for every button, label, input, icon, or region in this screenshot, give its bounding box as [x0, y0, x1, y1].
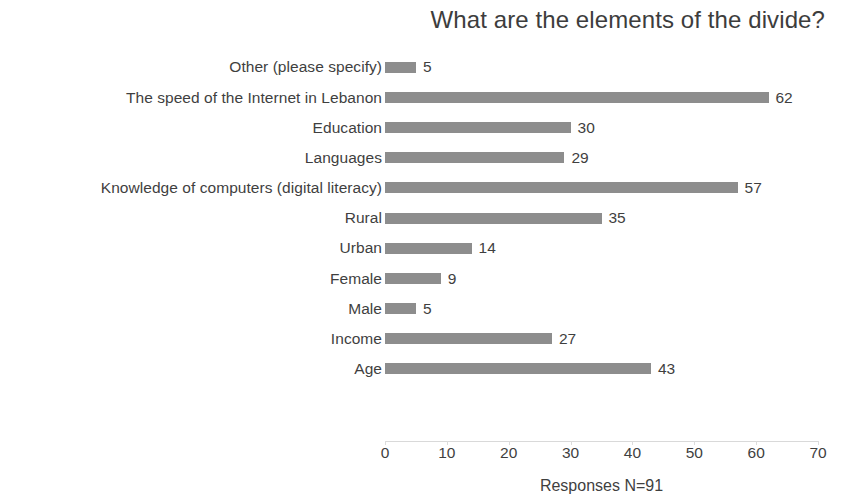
bar: [385, 363, 651, 374]
bar-container: 5: [385, 303, 432, 314]
x-axis-ticks: 010203040506070: [0, 445, 841, 467]
x-tick-label: 20: [500, 445, 517, 461]
x-axis-line: [385, 441, 818, 442]
bar-value-label: 9: [448, 271, 457, 287]
plot-area: Other (please specify)5The speed of the …: [0, 52, 841, 389]
bar: [385, 213, 602, 224]
bar-value-label: 57: [745, 180, 762, 196]
bar-row: Education30: [0, 112, 841, 142]
bar-container: 30: [385, 122, 595, 133]
x-tick-label: 50: [686, 445, 703, 461]
chart-title: What are the elements of the divide?: [0, 6, 825, 34]
category-label: Other (please specify): [0, 59, 382, 75]
bar: [385, 62, 416, 73]
bar-value-label: 5: [423, 301, 432, 317]
bar-row: Other (please specify)5: [0, 52, 841, 82]
category-label: Rural: [0, 210, 382, 226]
category-label: Education: [0, 120, 382, 136]
bar-container: 35: [385, 213, 626, 224]
x-tick-label: 70: [809, 445, 826, 461]
bar-container: 9: [385, 273, 456, 284]
bar: [385, 243, 472, 254]
bar-rows: Other (please specify)5The speed of the …: [0, 52, 841, 384]
bar-container: 27: [385, 333, 576, 344]
category-label: Male: [0, 301, 382, 317]
x-tick-label: 10: [438, 445, 455, 461]
bar-container: 29: [385, 152, 589, 163]
bar-row: The speed of the Internet in Lebanon62: [0, 82, 841, 112]
bar: [385, 303, 416, 314]
bar-value-label: 27: [559, 331, 576, 347]
category-label: Female: [0, 271, 382, 287]
bar: [385, 182, 738, 193]
bar: [385, 152, 564, 163]
bar-row: Male5: [0, 294, 841, 324]
bar-row: Age43: [0, 354, 841, 384]
x-tick-label: 60: [748, 445, 765, 461]
x-axis-title: Responses N=91: [385, 477, 818, 495]
bar-container: 57: [385, 182, 762, 193]
bar: [385, 333, 552, 344]
category-label: Languages: [0, 150, 382, 166]
bar-value-label: 35: [609, 210, 626, 226]
bar-row: Urban14: [0, 233, 841, 263]
category-label: Urban: [0, 240, 382, 256]
category-label: Age: [0, 361, 382, 377]
x-tick-label: 40: [624, 445, 641, 461]
bar: [385, 122, 571, 133]
bar-container: 43: [385, 363, 675, 374]
bar-row: Languages29: [0, 143, 841, 173]
bar-container: 5: [385, 62, 432, 73]
bar-row: Female9: [0, 263, 841, 293]
bar-row: Knowledge of computers (digital literacy…: [0, 173, 841, 203]
bar: [385, 92, 769, 103]
bar-value-label: 30: [578, 120, 595, 136]
bar-row: Income27: [0, 324, 841, 354]
bar-container: 14: [385, 243, 496, 254]
bar-value-label: 62: [776, 90, 793, 106]
bar-value-label: 14: [479, 240, 496, 256]
category-label: The speed of the Internet in Lebanon: [0, 90, 382, 106]
bar-container: 62: [385, 92, 793, 103]
category-label: Knowledge of computers (digital literacy…: [0, 180, 382, 196]
bar-value-label: 43: [658, 361, 675, 377]
x-tick-label: 30: [562, 445, 579, 461]
bar-value-label: 29: [571, 150, 588, 166]
bar: [385, 273, 441, 284]
x-tick-label: 0: [381, 445, 390, 461]
category-label: Income: [0, 331, 382, 347]
bar-value-label: 5: [423, 59, 432, 75]
bar-row: Rural35: [0, 203, 841, 233]
